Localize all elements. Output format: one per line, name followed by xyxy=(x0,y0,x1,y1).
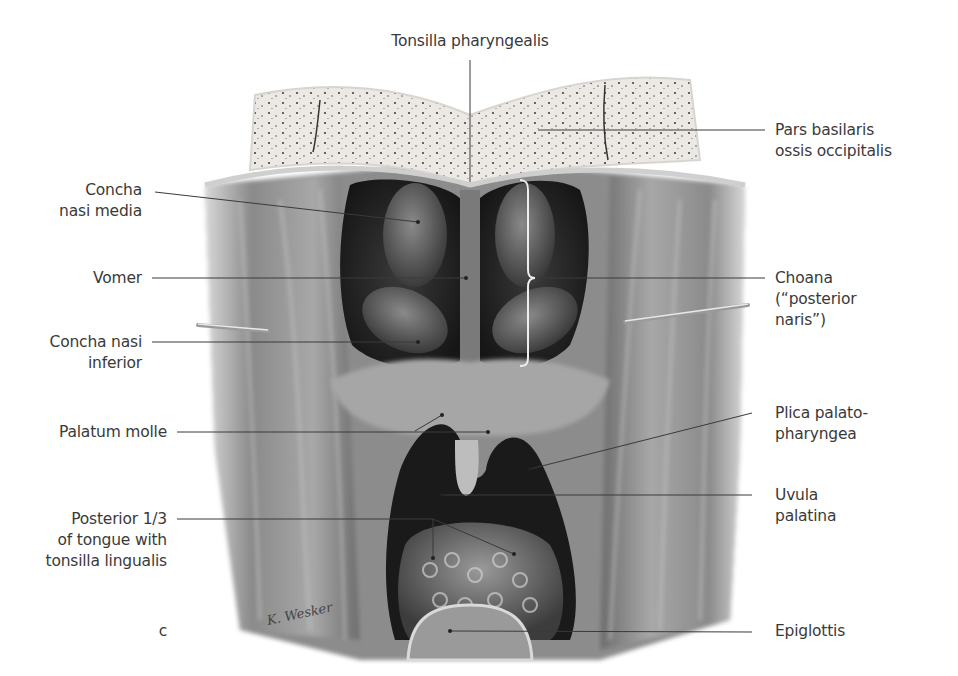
label-pars-basilaris: Pars basilaris ossis occipitalis xyxy=(775,120,892,162)
label-posterior-tongue: Posterior 1/3 of tongue with tonsilla li… xyxy=(10,509,167,572)
label-concha-nasi-inferior: Concha nasi inferior xyxy=(20,332,142,374)
label-plica-palatopharyngea: Plica palato- pharyngea xyxy=(775,403,868,445)
label-concha-nasi-media: Concha nasi media xyxy=(20,180,142,222)
label-uvula-palatina: Uvula palatina xyxy=(775,485,836,527)
label-palatum-molle: Palatum molle xyxy=(10,422,167,443)
label-vomer: Vomer xyxy=(20,268,142,289)
label-choana: Choana (“posterior naris”) xyxy=(775,268,856,331)
label-epiglottis: Epiglottis xyxy=(775,621,845,642)
panel-letter: c xyxy=(10,621,167,642)
anatomical-illustration: K. Wesker xyxy=(0,0,958,676)
palatum-molle xyxy=(330,359,610,436)
label-tonsilla-pharyngealis: Tonsilla pharyngealis xyxy=(370,31,570,52)
